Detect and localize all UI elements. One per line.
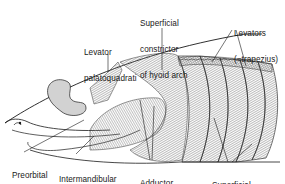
label-adductor-mandibulae: Adductor mandibulae [140, 163, 183, 184]
label-line: Intermandibular [59, 176, 117, 184]
label-superficial-constrictor-hyoid: Superficial constrictor of hyoid arch [140, 3, 188, 89]
label-line: Levator [84, 49, 137, 58]
label-intermandibular: Intermandibular [59, 159, 117, 184]
label-superficial-constrictors: Superficial constrictors [212, 165, 254, 184]
label-line: palatoquadrati [84, 75, 137, 84]
label-line: (=trapezius) [234, 56, 278, 65]
label-line: Superficial [212, 182, 254, 184]
label-line: of hyoid arch [140, 72, 188, 81]
label-line: Levators [234, 30, 278, 39]
label-levator-palatoquadrati: Levator palatoquadrati [84, 32, 137, 92]
label-line: Preorbital [12, 172, 48, 181]
orbit-outline [48, 80, 86, 116]
label-line: constrictor [140, 46, 188, 55]
label-line: Adductor [140, 180, 183, 184]
nostril-dot-icon [19, 122, 21, 124]
label-preorbital: Preorbital [12, 155, 48, 184]
label-line: Superficial [140, 20, 188, 29]
label-levators: Levators (=trapezius) [234, 13, 278, 73]
leader-preorbital [24, 120, 84, 152]
